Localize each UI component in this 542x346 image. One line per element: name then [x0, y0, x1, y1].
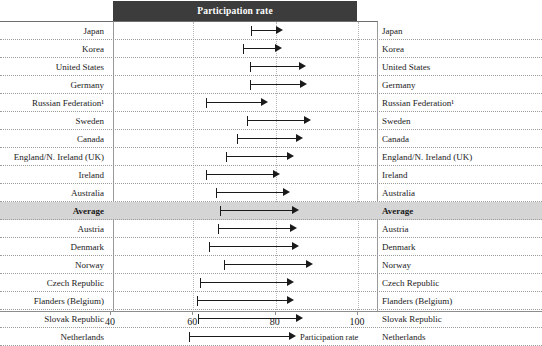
range-arrow-shaft [218, 228, 291, 229]
range-arrow-start-cap [206, 170, 207, 180]
range-arrow-head [275, 44, 282, 52]
row-label-left: Slovak Republic [0, 310, 108, 328]
row-label-left: Russian Federation¹ [0, 94, 108, 112]
range-arrow-start-cap [237, 134, 238, 144]
row-label-left: Norway [0, 256, 108, 274]
range-arrow [224, 256, 313, 274]
chart-row: AverageAverage [0, 202, 542, 220]
chart-banner-title: Participation rate [113, 1, 357, 21]
range-arrow-start-cap [250, 62, 251, 72]
range-arrow-head [261, 98, 268, 106]
range-arrow-head [276, 26, 283, 34]
row-label-left: Average [0, 202, 108, 220]
row-label-right: Germany [382, 76, 540, 94]
row-label-left: Flanders (Belgium) [0, 292, 108, 310]
range-arrow-shaft [226, 156, 288, 157]
row-label-left: Czech Republic [0, 274, 108, 292]
row-label-right: Sweden [382, 112, 540, 130]
range-arrow-shaft [251, 30, 277, 31]
chart-row: GermanyGermany [0, 76, 542, 94]
row-label-right: Ireland [382, 166, 540, 184]
row-label-right: England/N. Ireland (UK) [382, 148, 540, 166]
range-arrow [189, 328, 295, 346]
range-arrow [216, 184, 290, 202]
range-arrow-head [287, 152, 294, 160]
row-label-right: Slovak Republic [382, 310, 540, 328]
x-tick-label: 60 [187, 316, 197, 327]
range-arrow-start-cap [251, 26, 252, 36]
range-arrow-head [292, 242, 299, 250]
row-label-left: Australia [0, 184, 108, 202]
row-label-left: Canada [0, 130, 108, 148]
x-tick [357, 311, 358, 315]
range-arrow-shaft [189, 336, 289, 337]
range-arrow-shaft [220, 210, 293, 211]
row-label-left: Austria [0, 220, 108, 238]
range-arrow-start-cap [189, 332, 190, 342]
range-arrow-shaft [237, 138, 296, 139]
chart-row: KoreaKorea [0, 40, 542, 58]
range-arrow [250, 58, 306, 76]
chart-row: NorwayNorway [0, 256, 542, 274]
row-label-left: Denmark [0, 238, 108, 256]
row-label-right: Czech Republic [382, 274, 540, 292]
range-arrow-start-cap [200, 278, 201, 288]
range-arrow [197, 292, 294, 310]
range-arrow-shaft [250, 66, 300, 67]
range-arrow [226, 148, 294, 166]
range-arrow-shaft [250, 84, 300, 85]
row-label-right: Canada [382, 130, 540, 148]
chart-row: Flanders (Belgium)Flanders (Belgium) [0, 292, 542, 310]
range-arrow-shaft [206, 174, 274, 175]
range-arrow-start-cap [206, 98, 207, 108]
row-label-left: Ireland [0, 166, 108, 184]
range-arrow-shaft [224, 264, 307, 265]
row-label-left: Korea [0, 40, 108, 58]
row-label-right: Norway [382, 256, 540, 274]
range-arrow-head [287, 296, 294, 304]
range-arrow-head [287, 278, 294, 286]
range-arrow [206, 94, 268, 112]
range-arrow-head [300, 80, 307, 88]
row-label-left: United States [0, 58, 108, 76]
chart-root: Participation rate JapanJapanKoreaKoreaU… [0, 0, 542, 346]
row-label-right: Japan [382, 22, 540, 40]
range-arrow-head [296, 314, 303, 322]
row-label-right: Average [382, 202, 540, 220]
range-arrow [220, 202, 299, 220]
range-arrow [237, 130, 302, 148]
range-arrow-start-cap [250, 80, 251, 90]
row-label-left: Japan [0, 22, 108, 40]
chart-row: AustraliaAustralia [0, 184, 542, 202]
x-tick-label: 100 [350, 316, 365, 327]
chart-row: SwedenSweden [0, 112, 542, 130]
range-arrow [243, 40, 282, 58]
x-axis-line [0, 311, 542, 312]
range-arrow-shaft [216, 192, 284, 193]
range-arrow-start-cap [224, 260, 225, 270]
range-arrow-start-cap [243, 44, 244, 54]
x-tick [110, 311, 111, 315]
range-arrow-head [290, 224, 297, 232]
row-label-right: Denmark [382, 238, 540, 256]
row-label-right: Russian Federation¹ [382, 94, 540, 112]
range-arrow-head [304, 116, 311, 124]
range-arrow-start-cap [226, 152, 227, 162]
range-arrow-start-cap [220, 206, 221, 216]
range-arrow-start-cap [197, 296, 198, 306]
range-arrow-start-cap [247, 116, 248, 126]
row-label-left: Netherlands [0, 328, 108, 346]
chart-row: England/N. Ireland (UK)England/N. Irelan… [0, 148, 542, 166]
chart-row: DenmarkDenmark [0, 238, 542, 256]
range-arrow-start-cap [218, 224, 219, 234]
x-tick-label: 40 [105, 316, 115, 327]
chart-row: IrelandIreland [0, 166, 542, 184]
row-label-right: Australia [382, 184, 540, 202]
range-arrow [206, 166, 280, 184]
range-arrow [250, 76, 306, 94]
chart-row: JapanJapan [0, 22, 542, 40]
x-tick [192, 311, 193, 315]
row-label-left: Germany [0, 76, 108, 94]
x-tick-label: 80 [270, 316, 280, 327]
row-label-right: Flanders (Belgium) [382, 292, 540, 310]
